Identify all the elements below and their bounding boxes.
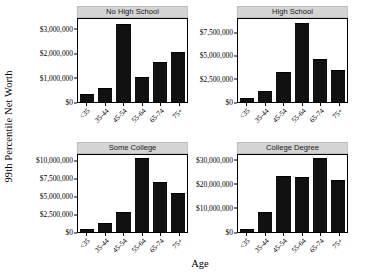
y-tick-label: $2,500,000 bbox=[200, 74, 237, 83]
plot-area-no-high-school bbox=[77, 18, 188, 103]
bar bbox=[295, 23, 309, 102]
faceted-bar-chart-figure: 99th Percentile Net Worth Age No High Sc… bbox=[0, 0, 382, 279]
x-tick-mark bbox=[320, 103, 321, 106]
x-tick-mark bbox=[179, 233, 180, 236]
bar bbox=[80, 94, 94, 102]
x-tick-label: 75+ bbox=[331, 107, 345, 121]
x-tick-mark bbox=[142, 233, 143, 236]
bar bbox=[331, 180, 345, 232]
bar-slot bbox=[274, 19, 292, 102]
x-tick-label: 35-44 bbox=[253, 237, 271, 255]
x-tick-label: 55-64 bbox=[290, 107, 308, 125]
bar bbox=[153, 182, 167, 232]
x-tick-label: 75+ bbox=[171, 107, 185, 121]
panel-strip-label: College Degree bbox=[266, 144, 319, 152]
plot-area-high-school bbox=[237, 18, 348, 103]
bar bbox=[116, 24, 130, 102]
x-tick-label: 55-64 bbox=[130, 107, 148, 125]
x-tick-mark bbox=[123, 103, 124, 106]
bar bbox=[331, 70, 345, 102]
panel-strip-no-high-school: No High School bbox=[77, 6, 188, 18]
bar bbox=[313, 158, 327, 232]
x-tick-mark bbox=[105, 103, 106, 106]
x-tick-mark bbox=[86, 103, 87, 106]
bar-slot bbox=[238, 155, 256, 232]
bar-slot bbox=[311, 155, 329, 232]
x-tick-label: 35-44 bbox=[93, 237, 111, 255]
bar-slot bbox=[329, 155, 347, 232]
y-tick-label: $30,000,000 bbox=[196, 155, 237, 164]
y-tick-label: $1,000,000 bbox=[40, 73, 77, 82]
bar bbox=[98, 88, 112, 102]
x-tick-mark bbox=[265, 103, 266, 106]
x-tick-mark bbox=[86, 233, 87, 236]
y-tick-label: $10,000,000 bbox=[196, 203, 237, 212]
bar-slot bbox=[274, 155, 292, 232]
x-tick-label: 65-74 bbox=[308, 237, 326, 255]
bar bbox=[295, 177, 309, 232]
x-tick-label: 75+ bbox=[171, 237, 185, 251]
x-tick-mark bbox=[339, 103, 340, 106]
x-tick-label: <35 bbox=[238, 237, 252, 251]
y-tick-label: $0 bbox=[66, 228, 77, 237]
bar-slot bbox=[238, 19, 256, 102]
bar-slot bbox=[256, 19, 274, 102]
bar-series-high-school bbox=[238, 19, 347, 102]
y-tick-label: $2,500,000 bbox=[40, 210, 77, 219]
bar-slot bbox=[293, 155, 311, 232]
x-tick-mark bbox=[246, 103, 247, 106]
x-tick-mark bbox=[160, 233, 161, 236]
bar bbox=[153, 62, 167, 102]
x-tick-label: 45-54 bbox=[111, 107, 129, 125]
panel-strip-high-school: High School bbox=[237, 6, 348, 18]
plot-area-college-degree bbox=[237, 154, 348, 233]
y-tick-label: $5,000,000 bbox=[40, 192, 77, 201]
panel-strip-label: Some College bbox=[109, 144, 157, 152]
y-tick-label: $3,000,000 bbox=[40, 24, 77, 33]
bar-slot bbox=[133, 155, 151, 232]
y-tick-label: $2,000,000 bbox=[40, 49, 77, 58]
x-tick-label: 55-64 bbox=[290, 237, 308, 255]
x-tick-mark bbox=[179, 103, 180, 106]
x-tick-label: <35 bbox=[78, 237, 92, 251]
bar bbox=[240, 229, 254, 232]
x-tick-mark bbox=[339, 233, 340, 236]
x-tick-mark bbox=[246, 233, 247, 236]
bar-slot bbox=[133, 19, 151, 102]
x-tick-mark bbox=[302, 233, 303, 236]
x-tick-label: 65-74 bbox=[308, 107, 326, 125]
y-axis-ticks-no-high-school: $0$1,000,000$2,000,000$3,000,000 bbox=[21, 18, 77, 103]
x-tick-label: <35 bbox=[238, 107, 252, 121]
y-axis-ticks-college-degree: $0$10,000,000$20,000,000$30,000,000 bbox=[181, 154, 237, 233]
panel-college-degree: College Degree $0$10,000,000$20,000,000$… bbox=[237, 142, 348, 233]
bar-slot bbox=[151, 19, 169, 102]
bar-slot bbox=[114, 155, 132, 232]
bar-series-some-college bbox=[78, 155, 187, 232]
x-tick-label: 45-54 bbox=[111, 237, 129, 255]
x-axis-ticks-no-high-school: <3535-4445-5455-6465-7475+ bbox=[77, 103, 188, 129]
x-tick-mark bbox=[265, 233, 266, 236]
x-tick-label: 35-44 bbox=[93, 107, 111, 125]
x-tick-mark bbox=[160, 103, 161, 106]
x-tick-mark bbox=[283, 103, 284, 106]
y-tick-label: $10,000,000 bbox=[36, 156, 77, 165]
x-tick-label: 35-44 bbox=[253, 107, 271, 125]
plot-area-some-college bbox=[77, 154, 188, 233]
bar bbox=[80, 229, 94, 232]
y-axis-ticks-some-college: $0$2,500,000$5,000,000$7,500,000$10,000,… bbox=[21, 154, 77, 233]
bar bbox=[240, 98, 254, 102]
bar-slot bbox=[293, 19, 311, 102]
x-tick-label: 45-54 bbox=[271, 107, 289, 125]
x-axis-ticks-college-degree: <3535-4445-5455-6465-7475+ bbox=[237, 233, 348, 259]
bar bbox=[276, 72, 290, 102]
y-tick-label: $20,000,000 bbox=[196, 179, 237, 188]
panel-strip-label: High School bbox=[272, 8, 313, 16]
y-tick-label: $7,500,000 bbox=[40, 174, 77, 183]
x-tick-mark bbox=[283, 233, 284, 236]
panel-no-high-school: No High School $0$1,000,000$2,000,000$3,… bbox=[77, 6, 188, 103]
bar bbox=[258, 212, 272, 232]
x-tick-mark bbox=[302, 103, 303, 106]
bar-slot bbox=[329, 19, 347, 102]
y-axis-ticks-high-school: $0$2,500,000$5,000,000$7,500,000 bbox=[181, 18, 237, 103]
x-tick-mark bbox=[123, 233, 124, 236]
